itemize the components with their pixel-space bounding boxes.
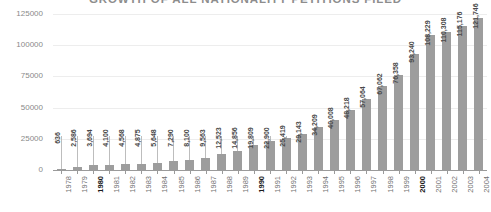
x-axis-tick	[157, 170, 158, 174]
bar-rect	[410, 54, 419, 170]
bar-value-label: 34,209	[311, 115, 318, 136]
bar-rect	[394, 75, 403, 170]
x-axis-label: 1983	[145, 176, 153, 193]
bar-value-label: 3,694	[86, 129, 93, 147]
x-axis-label: 1987	[210, 176, 218, 193]
y-axis-tick-label: 50000	[21, 104, 43, 112]
bar-value-label: 40,008	[327, 107, 334, 128]
bar[interactable]: 636	[57, 14, 66, 170]
bar-value-label: 48,218	[343, 97, 350, 118]
bar-value-label: 29,143	[295, 121, 302, 142]
bar-rect	[217, 154, 226, 170]
bar-rect	[153, 163, 162, 170]
bar[interactable]: 121,746	[474, 14, 483, 170]
bar[interactable]: 2,586	[73, 14, 82, 170]
bar[interactable]: 110,308	[442, 14, 451, 170]
bar[interactable]: 5,648	[153, 14, 162, 170]
x-axis-label: 1985	[178, 176, 186, 193]
bar-value-label: 14,856	[231, 127, 238, 148]
x-axis-label: 2001	[435, 176, 443, 193]
bar-value-label: 22,900	[263, 127, 270, 148]
x-axis-tick	[334, 170, 335, 174]
x-axis-label: 2000	[419, 176, 427, 193]
bar[interactable]: 108,229	[426, 14, 435, 170]
x-axis-tick	[350, 170, 351, 174]
bar[interactable]: 3,694	[89, 14, 98, 170]
x-axis-label: 2004	[483, 176, 491, 193]
bar[interactable]: 7,290	[169, 14, 178, 170]
bar-value-label: 636	[54, 132, 61, 144]
x-axis-tick	[383, 170, 384, 174]
x-axis-label: 1996	[354, 176, 362, 193]
x-axis-label: 1984	[161, 176, 169, 193]
bar-chart: GROWTH OF ALL NATIONALITY PETITIONS FILE…	[0, 0, 491, 212]
x-axis-label: 1979	[81, 176, 89, 193]
bar-rect	[378, 86, 387, 170]
bar[interactable]: 14,856	[233, 14, 242, 170]
x-axis-tick	[125, 170, 126, 174]
bar-value-label: 7,290	[167, 129, 174, 147]
x-axis-label: 1982	[129, 176, 137, 193]
bar[interactable]: 115,176	[458, 14, 467, 170]
x-axis-tick	[141, 170, 142, 174]
bar[interactable]: 29,143	[298, 14, 307, 170]
bar-value-label: 110,308	[440, 18, 447, 43]
x-axis-label: 1978	[65, 176, 73, 193]
x-axis-label: 1992	[290, 176, 298, 193]
bar-value-label: 5,648	[150, 129, 157, 147]
bar[interactable]: 4,568	[121, 14, 130, 170]
plot-area: 02500050000750001000001250006362,5863,69…	[53, 14, 487, 170]
x-axis-label: 1999	[403, 176, 411, 193]
bar[interactable]: 93,240	[410, 14, 419, 170]
bar-value-label: 4,100	[102, 129, 109, 147]
x-axis-tick	[463, 170, 464, 174]
x-axis-label: 1998	[387, 176, 395, 193]
chart-title: GROWTH OF ALL NATIONALITY PETITIONS FILE…	[0, 0, 491, 5]
x-axis-tick	[61, 170, 62, 174]
x-axis-tick	[254, 170, 255, 174]
bar[interactable]: 57,064	[362, 14, 371, 170]
bar[interactable]: 12,523	[217, 14, 226, 170]
bar-rect	[474, 18, 483, 170]
x-axis-tick	[190, 170, 191, 174]
bar-value-label: 25,419	[279, 126, 286, 147]
bar-rect	[249, 145, 258, 170]
bar-value-label: 115,176	[456, 12, 463, 37]
bar[interactable]: 25,419	[282, 14, 291, 170]
x-axis-tick	[415, 170, 416, 174]
x-axis-tick	[270, 170, 271, 174]
x-axis-tick	[286, 170, 287, 174]
bar-value-label: 93,240	[408, 41, 415, 62]
bar-value-label: 9,563	[199, 129, 206, 147]
x-axis-label: 1989	[242, 176, 250, 193]
bar[interactable]: 4,100	[105, 14, 114, 170]
bar[interactable]: 19,809	[249, 14, 258, 170]
bar[interactable]: 48,218	[346, 14, 355, 170]
bar-rect	[169, 161, 178, 170]
bar-rect	[458, 26, 467, 170]
x-axis-tick	[447, 170, 448, 174]
bar[interactable]: 9,563	[201, 14, 210, 170]
y-axis-tick-label: 100000	[16, 41, 43, 49]
x-axis-label: 1995	[338, 176, 346, 193]
bar[interactable]: 8,100	[185, 14, 194, 170]
bar-value-label: 12,523	[215, 127, 222, 148]
bar[interactable]: 22,900	[266, 14, 275, 170]
bar-value-label: 108,229	[424, 20, 431, 45]
x-axis-tick	[318, 170, 319, 174]
bar[interactable]: 34,209	[314, 14, 323, 170]
bar[interactable]: 40,008	[330, 14, 339, 170]
x-axis-tick	[302, 170, 303, 174]
bar-value-label: 121,746	[472, 3, 479, 28]
x-axis-label: 1997	[370, 176, 378, 193]
y-axis-tick-label: 25000	[21, 135, 43, 143]
bar[interactable]: 76,358	[394, 14, 403, 170]
x-axis-tick	[206, 170, 207, 174]
bar-rect	[346, 110, 355, 170]
bar-rect	[201, 158, 210, 170]
bar[interactable]: 67,062	[378, 14, 387, 170]
x-axis-tick	[222, 170, 223, 174]
bar-rect	[362, 99, 371, 170]
bar[interactable]: 4,875	[137, 14, 146, 170]
x-axis: 1978197919801981198219831984198519861987…	[53, 170, 487, 212]
